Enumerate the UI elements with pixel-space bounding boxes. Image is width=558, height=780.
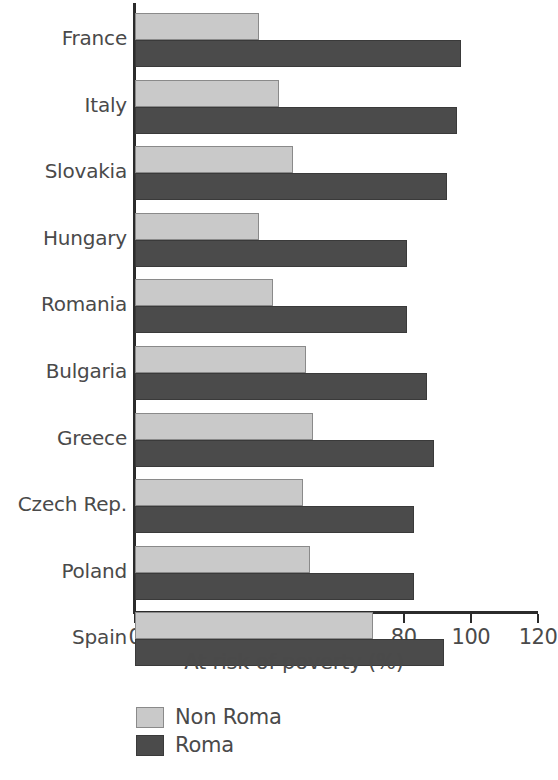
bar-non-roma (135, 546, 310, 573)
bar-roma (135, 573, 414, 600)
bar-non-roma (135, 413, 313, 440)
x-axis-tick-label: 120 (519, 625, 558, 649)
y-axis-category-label: France (62, 26, 127, 50)
y-axis-category-label: Czech Rep. (18, 492, 127, 516)
bar-non-roma (135, 479, 303, 506)
legend-swatch-dark (136, 735, 164, 756)
chart-legend: Non RomaRoma (136, 703, 282, 759)
x-axis-title-text: At risk of poverty (%) (184, 650, 404, 674)
x-axis-tick (470, 614, 472, 623)
plot-area: 020406080100120 FranceItalySlovakiaHunga… (0, 0, 558, 620)
x-axis-tick-label: 100 (452, 625, 491, 649)
bar-roma (135, 173, 447, 200)
y-axis-category-label: Greece (57, 426, 127, 450)
bar-chart: 020406080100120 FranceItalySlovakiaHunga… (0, 0, 558, 780)
bar-roma (135, 440, 434, 467)
bar-roma (135, 240, 407, 267)
legend-label: Non Roma (175, 705, 282, 729)
legend-item: Roma (136, 731, 282, 759)
bar-roma (135, 107, 457, 134)
legend-swatch-light (136, 707, 164, 728)
bar-roma (135, 306, 407, 333)
y-axis-category-label: Hungary (43, 226, 127, 250)
y-axis-category-label: Slovakia (45, 159, 127, 183)
y-axis-category-label: Poland (61, 559, 127, 583)
bar-non-roma (135, 80, 279, 107)
y-axis-category-label: Spain (72, 625, 127, 649)
bar-roma (135, 40, 461, 67)
x-axis-title: At risk of poverty (%) (0, 650, 558, 674)
x-axis-tick (403, 614, 405, 623)
bar-non-roma (135, 13, 259, 40)
legend-item: Non Roma (136, 703, 282, 731)
y-axis-category-label: Bulgaria (46, 359, 127, 383)
bar-non-roma (135, 213, 259, 240)
y-axis-category-label: Romania (41, 292, 127, 316)
bar-non-roma (135, 612, 373, 639)
y-axis-category-label: Italy (85, 93, 127, 117)
bar-non-roma (135, 146, 293, 173)
bar-non-roma (135, 346, 306, 373)
bar-non-roma (135, 279, 273, 306)
bar-roma (135, 373, 427, 400)
bar-roma (135, 506, 414, 533)
legend-label: Roma (175, 733, 234, 757)
x-axis-tick (537, 614, 539, 623)
